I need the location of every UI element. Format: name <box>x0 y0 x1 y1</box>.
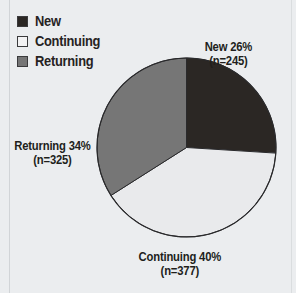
callout-returning-percent: Returning 34% <box>14 139 90 153</box>
pie-svg <box>96 57 277 238</box>
legend-swatch-continuing-icon <box>17 36 28 47</box>
callout-new: New 26% (n=245) <box>205 40 253 68</box>
legend-label-returning: Returning <box>35 53 93 69</box>
legend-item-new: New <box>17 12 137 30</box>
callout-new-count: (n=245) <box>205 54 253 68</box>
scan-edge-right <box>291 0 292 293</box>
legend-swatch-returning-icon <box>17 56 28 67</box>
legend-label-new: New <box>35 13 61 29</box>
legend-item-continuing: Continuing <box>17 32 137 50</box>
callout-continuing: Continuing 40% (n=377) <box>139 250 221 278</box>
pie-chart-figure: New Continuing Returning New 26% (n=245)… <box>0 0 296 293</box>
callout-new-percent: New 26% <box>205 40 253 54</box>
callout-returning: Returning 34% (n=325) <box>14 139 90 167</box>
pie-slice-new <box>187 58 276 153</box>
legend-label-continuing: Continuing <box>35 33 100 49</box>
legend-swatch-new-icon <box>17 16 28 27</box>
pie-graphic <box>96 57 277 238</box>
callout-continuing-percent: Continuing 40% <box>139 250 221 264</box>
scan-edge-left <box>9 0 10 293</box>
callout-continuing-count: (n=377) <box>139 264 221 278</box>
callout-returning-count: (n=325) <box>14 153 90 167</box>
